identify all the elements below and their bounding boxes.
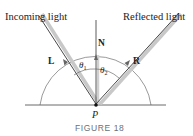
r-label: R	[133, 56, 140, 66]
theta2-label: θ2	[100, 65, 107, 76]
reflected-light-label: Reflected light	[123, 11, 185, 22]
reflection-diagram: Incoming light Reflected light N L R θ1 …	[0, 0, 193, 136]
incoming-light-label: Incoming light	[5, 11, 67, 22]
figure-caption: FIGURE 18	[75, 123, 124, 133]
point-label: P	[91, 109, 98, 120]
point-p	[94, 103, 98, 107]
normal-label: N	[98, 38, 105, 48]
l-label: L	[48, 56, 54, 66]
theta1-label: θ1	[79, 60, 86, 71]
